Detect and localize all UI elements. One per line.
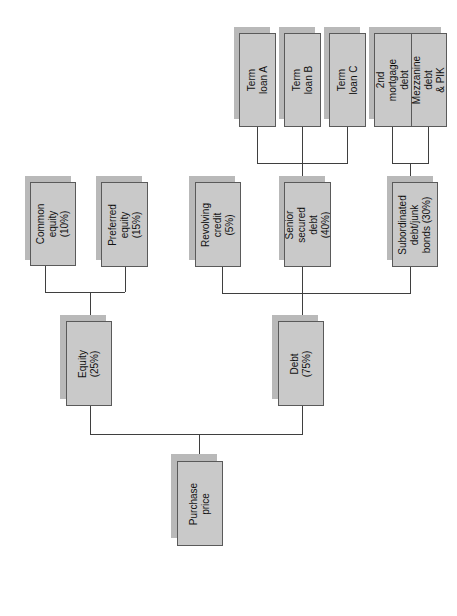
node-label: Term loan C — [336, 63, 360, 98]
box: Preferred equity (15%) — [101, 182, 148, 267]
box: Purchase price — [177, 461, 223, 546]
connector — [410, 266, 411, 293]
node-label: 2nd mortgage debt — [375, 59, 411, 101]
connector — [222, 266, 223, 293]
node-mezzanine-debt: Mezzanine debt & PIK — [412, 34, 447, 126]
connector — [392, 163, 429, 164]
node-label: Debt (75%) — [289, 342, 313, 386]
node-label: Equity (25%) — [77, 342, 101, 386]
connector — [302, 126, 303, 182]
box: Subordinated debt/junk bonds (30%) — [392, 182, 438, 267]
node-label: Common equity (10%) — [35, 202, 71, 246]
node-2nd-mortgage-debt: 2nd mortgage debt — [375, 34, 411, 126]
node-label: Revolving credit (5%) — [200, 203, 236, 247]
node-label: Term loan A — [246, 63, 270, 98]
node-label: Preferred equity (15%) — [107, 202, 143, 247]
connector — [45, 265, 46, 292]
node-label: Subordinated debt/junk bonds (30%) — [397, 195, 433, 255]
connector — [392, 126, 393, 163]
connector — [302, 405, 303, 434]
connector — [90, 434, 303, 435]
node-label: Term loan B — [291, 63, 315, 98]
node-label: Senior secured debt (40%) — [284, 202, 331, 247]
connector — [257, 163, 348, 164]
box: Term loan B — [284, 33, 321, 127]
connector — [347, 126, 348, 163]
connector — [428, 126, 429, 163]
box: Senior secured debt (40%) — [284, 182, 331, 267]
box: Common equity (10%) — [30, 182, 76, 266]
node-label: Purchase price — [188, 482, 212, 526]
box: Term loan A — [239, 33, 276, 127]
connector — [222, 293, 411, 294]
box: Equity (25%) — [66, 321, 112, 406]
box: 2nd mortgage debt Mezzanine debt & PIK — [374, 33, 447, 127]
connector — [45, 292, 125, 293]
box: Revolving credit (5%) — [195, 182, 241, 267]
box: Debt (75%) — [278, 321, 324, 406]
box: Term loan C — [329, 33, 366, 127]
connector — [90, 405, 91, 434]
connector — [125, 265, 126, 292]
connector — [257, 126, 258, 163]
node-label: Mezzanine debt & PIK — [412, 56, 447, 104]
